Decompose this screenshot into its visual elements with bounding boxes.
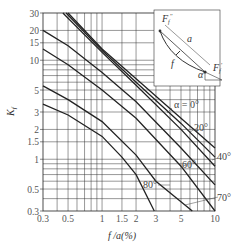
inset-diagram: a f α Ff'' Ff' xyxy=(154,10,223,86)
inset-label-alpha: α xyxy=(198,69,204,80)
x-tick-label: 0.5 xyxy=(62,214,74,224)
x-axis-ticks: 0.30.511.523510 xyxy=(37,214,220,224)
label-80: 80° xyxy=(143,179,157,190)
nomogram-chart: a f α Ff'' Ff' α = 0° 20° 40° 60° 80° 70… xyxy=(0,0,238,251)
x-tick-label: 2 xyxy=(134,214,139,224)
x-tick-label: 1 xyxy=(100,214,105,224)
y-tick-label: 15 xyxy=(30,38,40,48)
label-60: 60° xyxy=(182,159,196,170)
x-tick-label: 3 xyxy=(154,214,159,224)
x-tick-label: 0.3 xyxy=(37,214,49,224)
y-axis-label: Kf xyxy=(5,106,18,117)
inset-label-a: a xyxy=(187,33,192,44)
x-axis-label: f /a(%) xyxy=(108,230,137,242)
x-tick-label: 10 xyxy=(210,214,220,224)
label-40: 40° xyxy=(217,151,231,162)
x-tick-label: 5 xyxy=(179,214,184,224)
y-tick-label: 3 xyxy=(34,108,39,118)
y-tick-label: 1 xyxy=(34,155,39,165)
y-tick-label: 1.5 xyxy=(27,137,39,147)
y-axis-ticks: 0.30.511.523510152030 xyxy=(27,9,43,217)
y-tick-label: 20 xyxy=(30,26,40,36)
label-70: 70° xyxy=(217,192,231,203)
y-tick-label: 30 xyxy=(30,9,40,19)
y-tick-label: 5 xyxy=(34,86,39,96)
label-alpha-0: α = 0° xyxy=(174,99,199,110)
x-tick-label: 1.5 xyxy=(116,214,128,224)
inset-label-f-prime: Ff' xyxy=(212,62,223,74)
label-20: 20° xyxy=(194,122,208,133)
y-tick-label: 2 xyxy=(34,125,39,135)
y-tick-label: 0.5 xyxy=(27,185,39,195)
y-tick-label: 10 xyxy=(30,56,40,66)
